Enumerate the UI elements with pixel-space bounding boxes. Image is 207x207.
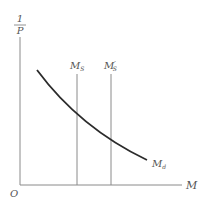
money-supply-label: MS bbox=[69, 60, 84, 72]
new-money-supply-label: M′S bbox=[103, 60, 117, 72]
x-axis-label: M bbox=[185, 179, 198, 192]
y-label-numerator: 1 bbox=[17, 13, 23, 24]
money-market-diagram: 1 P M O MS M′S Md bbox=[0, 0, 207, 207]
y-label-denominator: P bbox=[16, 25, 24, 36]
origin-label: O bbox=[10, 188, 18, 199]
money-demand-curve bbox=[37, 70, 147, 160]
y-axis-label: 1 P bbox=[14, 13, 26, 36]
money-demand-label: Md bbox=[151, 158, 166, 170]
